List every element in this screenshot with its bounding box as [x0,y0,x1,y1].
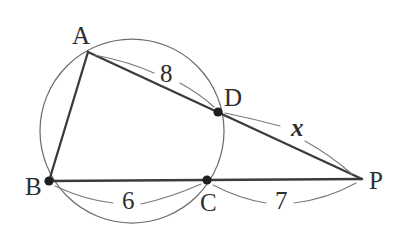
measure-label-ad: 8 [160,60,173,87]
geometry-canvas: A B C D P 8 x 6 7 [0,0,409,236]
point-label-b: B [25,173,42,200]
measure-label-bc: 6 [122,187,135,214]
geometry-figure: A B C D P 8 x 6 7 [0,0,409,236]
vertex-dot-b [44,176,53,185]
point-label-p: P [369,167,383,194]
vertex-dot-d [213,107,222,116]
measure-label-dp: x [290,114,304,141]
point-label-d: D [224,84,242,111]
point-label-a: A [72,22,90,49]
point-label-c: C [200,189,217,216]
measure-label-cp: 7 [275,187,288,214]
vertex-dot-c [202,175,211,184]
